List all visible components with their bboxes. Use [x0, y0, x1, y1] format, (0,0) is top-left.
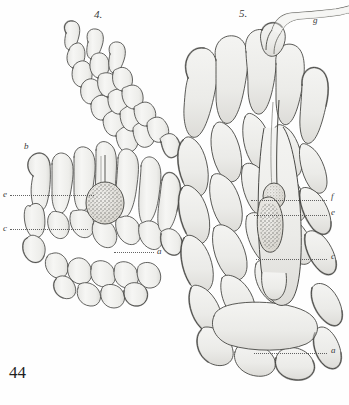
key-label-b: b: [24, 142, 29, 151]
lithograph-plate: 4.5.gbecafeca 44: [0, 0, 349, 405]
key-label-a5: a: [331, 346, 336, 355]
key-label-c5: c: [331, 252, 335, 261]
key-label-e4: e: [3, 190, 7, 199]
leader-line-e4: [10, 195, 94, 197]
leader-line-a5: [254, 353, 327, 355]
key-label-e5: e: [331, 208, 335, 217]
fig5-basal-chamber: [212, 302, 317, 350]
plate-illustration: [0, 0, 349, 405]
key-label-g: g: [313, 16, 318, 25]
figure-number-4: 4.: [94, 9, 102, 20]
leader-line-f5: [251, 200, 327, 202]
key-label-f5: f: [331, 192, 334, 201]
figure-number-5: 5.: [239, 8, 247, 19]
leader-line-c5: [256, 259, 327, 261]
key-label-a4: a: [157, 247, 162, 256]
leader-line-a4: [114, 252, 154, 254]
key-label-c4: c: [3, 224, 7, 233]
leader-line-e5: [254, 215, 327, 217]
plate-number: 44: [9, 363, 26, 383]
leader-line-c4: [10, 229, 88, 231]
